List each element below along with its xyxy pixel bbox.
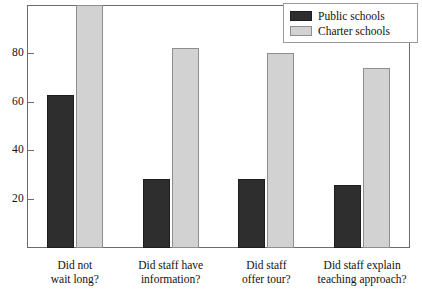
y-tick-label-80: 80 (2, 47, 24, 59)
legend-swatch-icon-public-schools (290, 11, 312, 21)
bar-charter-schools-4 (363, 68, 390, 248)
legend: Public schools Charter schools (283, 3, 418, 43)
bar-chart: 80 60 40 20 Did notwait long?Did staff h… (0, 0, 422, 294)
bar-charter-schools-1 (76, 5, 103, 248)
bar-public-schools-3 (238, 179, 265, 248)
bar-public-schools-1 (47, 95, 74, 248)
y-tick-label-60: 60 (2, 96, 24, 108)
bar-public-schools-2 (143, 179, 170, 248)
bar-charter-schools-2 (172, 48, 199, 248)
x-axis-labels: Did notwait long?Did staff haveinformati… (27, 250, 410, 294)
legend-item-charter-schools[interactable]: Charter schools (290, 23, 413, 38)
y-tick-label-40: 40 (2, 144, 24, 156)
legend-label-charter-schools: Charter schools (318, 25, 390, 37)
bar-charter-schools-3 (267, 53, 294, 248)
y-tick-label-20: 20 (2, 193, 24, 205)
y-axis: 80 60 40 20 (0, 0, 24, 294)
x-axis-label-4: Did staff explainteaching approach? (300, 258, 422, 286)
legend-swatch-icon-charter-schools (290, 26, 312, 36)
legend-item-public-schools[interactable]: Public schools (290, 8, 413, 23)
bar-public-schools-4 (334, 185, 361, 248)
legend-label-public-schools: Public schools (318, 10, 385, 22)
